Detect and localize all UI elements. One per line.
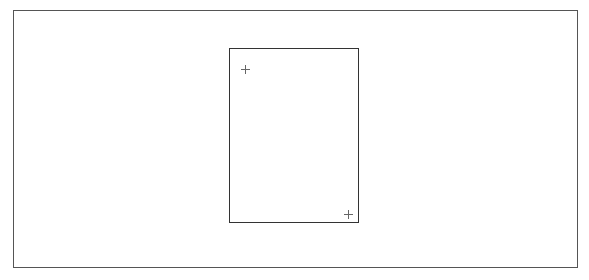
crosshair-icon[interactable] xyxy=(344,210,353,219)
crosshair-icon[interactable] xyxy=(241,65,250,74)
page-rectangle[interactable] xyxy=(229,48,359,223)
